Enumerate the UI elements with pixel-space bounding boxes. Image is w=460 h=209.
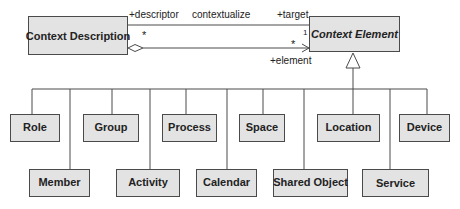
class-group: Group (83, 114, 139, 142)
class-member: Member (29, 169, 90, 197)
class-location: Location (317, 114, 380, 142)
class-role: Role (10, 114, 60, 142)
generalization-triangle-icon (346, 53, 360, 68)
class-name: Role (23, 121, 47, 133)
class-name: Activity (128, 176, 168, 188)
class-calendar: Calendar (196, 169, 257, 197)
class-name: Shared Object (273, 176, 348, 188)
class-activity: Activity (116, 169, 180, 197)
role-element-label: +element (270, 55, 311, 66)
class-context-element: Context Element (309, 16, 400, 52)
role-descriptor-label: +descriptor (129, 9, 179, 20)
class-name: Service (376, 177, 415, 189)
role-target-label: +target (277, 9, 308, 20)
multiplicity-element: * (291, 38, 295, 50)
uml-class-diagram: Context Description Context Element +des… (0, 0, 460, 209)
association-name-label: contextualize (192, 9, 250, 20)
class-name: Context Element (311, 28, 398, 40)
class-service: Service (362, 169, 429, 197)
class-name: Context Description (26, 30, 131, 42)
multiplicity-descriptor: * (142, 29, 146, 41)
class-context-description: Context Description (28, 16, 128, 55)
class-name: Location (326, 121, 372, 133)
class-shared-object: Shared Object (273, 169, 348, 197)
class-name: Space (246, 121, 278, 133)
multiplicity-target: 1 (303, 28, 307, 37)
class-space: Space (239, 114, 285, 142)
class-name: Device (407, 121, 442, 133)
class-device: Device (399, 114, 450, 142)
class-name: Group (95, 121, 128, 133)
class-name: Process (168, 121, 211, 133)
class-name: Calendar (203, 176, 250, 188)
class-process: Process (162, 114, 217, 142)
aggregation-diamond-icon (128, 45, 143, 52)
class-name: Member (38, 176, 80, 188)
